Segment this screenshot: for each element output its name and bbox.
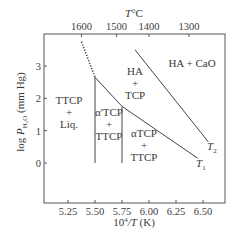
top-tick-label: 1600 — [71, 21, 92, 32]
left-tick-label: 1 — [36, 126, 41, 137]
left-axis-label: log PH₂O (mm Hg) — [14, 72, 29, 152]
region-label-line: TCP — [125, 89, 145, 101]
bottom-tick-label: 6.25 — [167, 206, 185, 217]
top-tick-label: 1300 — [178, 21, 199, 32]
region-ha-tcp: HA + TCP — [125, 65, 145, 101]
bottom-axis-label: 104/T (K) — [113, 216, 155, 229]
top-tick-label: 1400 — [139, 21, 160, 32]
region-label-line: TTCP — [96, 130, 123, 142]
phase-diagram: T°C 1600150014001300 5.255.505.756.006.2… — [0, 0, 237, 242]
liquidus-boundary-dotted — [82, 42, 96, 78]
region-label-line: + — [141, 139, 147, 151]
curve-label-t2: T2 — [207, 140, 217, 155]
region-alpha-tcp-ttcp: αTCP + TTCP — [131, 127, 158, 163]
region-label-line: + — [132, 77, 138, 89]
region-label-line: + — [106, 118, 112, 130]
bottom-tick-label: 5.25 — [59, 206, 77, 217]
region-label-line: α'TCP — [95, 106, 123, 118]
region-ttcp-liq: TTCP + Liq. — [56, 94, 83, 130]
left-tick-label: 0 — [36, 158, 41, 169]
region-label-line: HA — [127, 65, 143, 77]
region-label-line: TTCP — [131, 151, 158, 163]
region-label-line: TTCP — [56, 94, 83, 106]
bottom-tick-label: 6.50 — [194, 206, 212, 217]
region-label-line: αTCP — [131, 127, 157, 139]
curve-label-t1: T1 — [196, 157, 206, 172]
region-label-line: Liq. — [60, 118, 78, 130]
top-axis-label: T°C — [125, 7, 143, 19]
left-tick-label: 3 — [36, 61, 41, 72]
bottom-tick-label: 5.50 — [86, 206, 104, 217]
region-label-line: + — [66, 106, 72, 118]
region-alpha-prime-tcp-ttcp: α'TCP + TTCP — [95, 106, 123, 142]
region-label-line: HA + CaO — [168, 57, 215, 69]
top-tick-label: 1500 — [106, 21, 127, 32]
region-ha-cao: HA + CaO — [168, 57, 215, 69]
left-tick-label: 2 — [36, 93, 41, 104]
